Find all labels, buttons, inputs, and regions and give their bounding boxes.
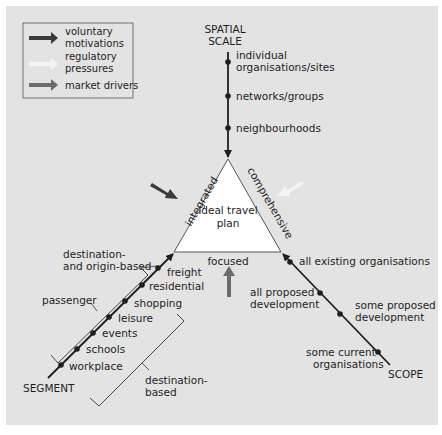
legend-label: motivations	[65, 38, 124, 49]
scope-point-label: development	[250, 298, 319, 310]
center-label: ideal travel	[198, 204, 257, 216]
annotation-label: destination-	[63, 248, 126, 260]
travel-plan-diagram: voluntary motivations regulatory pressur…	[0, 0, 442, 435]
center-label: plan	[217, 217, 240, 229]
annotation-label: based	[145, 386, 177, 398]
segment-point-label: freight	[167, 266, 202, 278]
legend: voluntary motivations regulatory pressur…	[23, 23, 138, 98]
legend-label: regulatory	[65, 51, 117, 62]
axis-title: SPATIAL	[204, 23, 245, 35]
scope-point-label: development	[355, 311, 424, 323]
segment-point-label: workplace	[69, 360, 123, 372]
segment-point-label: shopping	[134, 297, 182, 309]
axis-title: SCALE	[208, 35, 242, 47]
segment-axis: freight residential shopping leisure eve…	[23, 248, 208, 406]
scope-point-label: some proposed	[355, 299, 436, 311]
legend-label: pressures	[65, 63, 113, 74]
annotation-label: passenger	[42, 294, 97, 306]
scope-point-label: some current	[306, 346, 376, 358]
segment-point-label: events	[102, 327, 137, 339]
scope-point-label: all existing organisations	[299, 255, 430, 267]
segment-point-label: schools	[86, 343, 125, 355]
spatial-scale-axis: SPATIAL SCALE individual organisations/s…	[204, 23, 334, 157]
segment-point-label: leisure	[118, 312, 153, 324]
scope-axis: all existing organisations all proposed …	[250, 254, 436, 380]
annotation-label: destination-	[145, 374, 208, 386]
axis-point-label: neighbourhoods	[236, 122, 321, 134]
axis-title: SCOPE	[388, 368, 423, 380]
side-label-focused: focused	[207, 255, 248, 267]
scope-point-label: organisations	[313, 358, 384, 370]
scope-point-label: all proposed	[250, 286, 314, 298]
axis-title: SEGMENT	[23, 382, 75, 394]
market-arrow-icon	[223, 266, 235, 297]
segment-point-label: residential	[149, 280, 204, 292]
voluntary-arrow-icon	[150, 183, 178, 199]
ideal-travel-plan-triangle: ideal travel plan integrated comprehensi…	[174, 159, 296, 267]
regulatory-arrow-icon	[277, 181, 304, 196]
legend-label: market drivers	[65, 80, 138, 91]
axis-point-label: organisations/sites	[236, 61, 335, 73]
annotation-label: and origin-based	[63, 260, 151, 272]
axis-point-label: individual	[236, 49, 287, 61]
axis-point-label: networks/groups	[236, 90, 324, 102]
legend-label: voluntary	[65, 26, 113, 37]
